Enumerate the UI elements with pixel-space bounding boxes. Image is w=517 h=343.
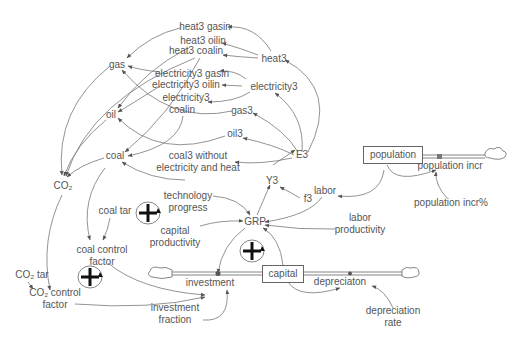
loop-reinforcing-icon [78,266,103,288]
var-electricity3-oilin[interactable]: electricity3 oilin [152,79,220,91]
link-E3-coal3 [235,158,292,163]
var-labor-productivity[interactable]: labor [349,212,371,224]
var-heat3-gasin[interactable]: heat3 gasin [179,21,231,33]
stock-capital[interactable]: capital [262,265,304,283]
link-incrpct-incr [436,172,447,198]
var-coal-control-factor[interactable]: coal control [76,244,127,256]
link-co2-co2cf [47,195,62,290]
var-labor[interactable]: labor [314,185,336,197]
link-E3-heat3-arc [285,60,320,152]
var-co2-control-factor[interactable]: CO₂ control [29,287,81,299]
link-invfrac-investment [203,290,227,320]
var-electricity3[interactable]: electricity3 [250,81,297,93]
var-gas[interactable]: gas [109,59,125,71]
link-population-labor [338,170,384,196]
loop-reinforcing-icon [136,202,161,224]
diagram-canvas: population capital population incr inves… [0,0,517,343]
var-f3[interactable]: f3 [304,193,312,205]
var-heat3[interactable]: heat3 [261,53,286,65]
var-depreciation-rate-line2[interactable]: rate [384,317,401,329]
link-labor-GRP [265,197,322,222]
var-technology-progress[interactable]: technology [164,190,212,202]
var-electricity3-coalin-line2[interactable]: coalin [169,104,195,116]
link-E3-electricity3 [275,93,302,152]
flow-population-incr[interactable]: population incr [417,160,482,172]
var-GRP[interactable]: GRP [244,216,266,228]
var-depreciation-rate[interactable]: depreciation [366,305,420,317]
flow-depreciaton[interactable]: depreciaton [314,276,366,288]
link-GRP-investment [218,228,245,273]
link-Y3-E3 [273,150,295,165]
var-capital-productivity-line2[interactable]: productivity [150,237,201,249]
link-oil-co2 [64,120,106,176]
var-coal3-without[interactable]: coal3 without [169,150,227,162]
var-coal-control-factor-line2[interactable]: factor [89,256,114,268]
var-coal3-without-line2[interactable]: electricity and heat [156,162,239,174]
var-co2-control-factor-line2[interactable]: factor [42,299,67,311]
var-capital-productivity[interactable]: capital [161,225,190,237]
link-heat3-heat3gasin [228,27,271,51]
link-GRP-Y3 [257,185,270,215]
var-technology-progress-line2[interactable]: progress [169,202,208,214]
var-heat3-coalin[interactable]: heat3 coalin [169,45,223,57]
flow-investment[interactable]: investment [186,277,234,289]
loop-reinforcing-icon [240,240,265,262]
link-capprod-GRP [200,221,243,226]
link-E3-gas3 [253,113,298,152]
var-electricity3-coalin[interactable]: electricity3 [162,92,209,104]
var-investment-fraction-line2[interactable]: fraction [159,314,192,326]
link-oil3-oil [118,118,225,145]
link-tech-GRP [213,196,250,215]
link-e3-oilin [222,85,242,86]
var-labor-productivity-line2[interactable]: productivity [335,224,386,236]
link-laborprod-GRP [265,225,335,229]
var-investment-fraction[interactable]: investment [151,302,199,314]
var-E3[interactable]: E3 [296,149,308,161]
var-co2-tar[interactable]: CO₂ tar [15,269,48,281]
link-coal-coalcf [87,168,105,240]
link-f3-Y3 [280,187,300,198]
var-coal[interactable]: coal [106,150,124,162]
link-capital-GRP [263,228,283,265]
link-heat3-heat3coalin [223,55,258,58]
stock-population[interactable]: population [363,146,423,164]
var-oil[interactable]: oil [106,109,116,121]
var-CO2[interactable]: CO₂ [54,180,73,192]
link-heat3-heat3oilin [222,43,258,55]
var-coal-tar[interactable]: coal tar [99,205,132,217]
link-e3-coalin [208,92,250,102]
var-population-incr-pct[interactable]: population incr% [414,197,488,209]
link-E3-oil3 [243,138,294,155]
var-oil3[interactable]: oil3 [227,128,243,140]
var-gas3[interactable]: gas3 [231,105,253,117]
link-coal-co2b [68,163,108,178]
var-Y3[interactable]: Y3 [266,175,278,187]
link-coaltar-coalcf [103,218,110,240]
link-coal-co2 [67,158,104,177]
